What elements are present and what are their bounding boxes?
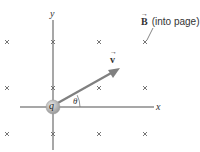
charge-label: q (49, 101, 54, 111)
field-label: → B (into page) (141, 12, 199, 28)
field-x-icon (97, 132, 101, 136)
field-x-icon (97, 40, 101, 44)
x-axis-label: x (156, 102, 160, 112)
field-x-icon (143, 40, 147, 44)
field-markers (5, 40, 147, 136)
velocity-vector-arrow-icon (56, 68, 120, 104)
velocity-label: → v (110, 55, 115, 65)
field-x-icon (5, 86, 9, 90)
field-x-icon (143, 132, 147, 136)
vector-arrow-icon: → (110, 49, 117, 56)
field-x-icon (5, 132, 9, 136)
angle-arc (77, 95, 80, 107)
field-label-pointer (147, 28, 153, 40)
field-x-icon (97, 86, 101, 90)
y-axis-label: y (50, 9, 54, 19)
angle-label: θ (73, 97, 77, 106)
field-direction-text: (into page) (152, 16, 200, 27)
vector-arrow-icon: → (141, 11, 148, 18)
field-x-icon (143, 86, 147, 90)
field-x-icon (5, 40, 9, 44)
